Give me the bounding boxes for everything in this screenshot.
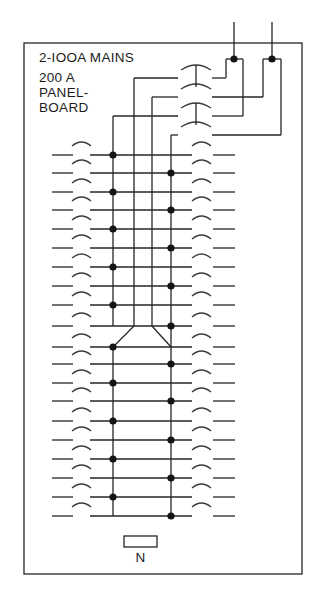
- branch-row: [52, 427, 235, 444]
- junction-dot-icon: [167, 206, 174, 213]
- junction-dot-icon: [109, 455, 116, 462]
- branch-row: [52, 179, 235, 196]
- left-breaker-arc-icon: [72, 370, 91, 374]
- junction-dot-icon: [230, 55, 237, 62]
- left-breaker-arc-icon: [72, 351, 91, 355]
- right-breaker-arc-icon: [192, 388, 211, 392]
- left-breaker-arc-icon: [72, 313, 91, 317]
- junction-dot-icon: [109, 225, 116, 232]
- branch-row: [52, 370, 235, 387]
- right-breaker-arc-icon: [192, 160, 211, 164]
- left-breaker-arc-icon: [72, 427, 91, 431]
- junction-dot-icon: [268, 55, 275, 62]
- branch-row: [52, 465, 235, 482]
- left-breaker-arc-icon: [72, 484, 91, 488]
- branch-row: [52, 313, 235, 330]
- left-breaker-arc-icon: [72, 446, 91, 450]
- left-breaker-arc-icon: [72, 254, 91, 258]
- one-line-diagram: 2-IOOA MAINS 200 A PANEL- BOARD N: [0, 0, 322, 594]
- right-breaker-arc-icon: [192, 254, 211, 258]
- right-breaker-arc-icon: [192, 408, 211, 412]
- right-breaker-arc-icon: [192, 142, 211, 146]
- service-feeds: [226, 22, 281, 63]
- branch-row: [52, 273, 235, 290]
- main-breakers: [113, 59, 281, 135]
- mains-rating-label: 2-IOOA MAINS: [39, 50, 134, 65]
- junction-dot-icon: [167, 474, 174, 481]
- junction-dot-icon: [109, 343, 116, 350]
- left-breaker-arc-icon: [72, 142, 91, 146]
- junction-dot-icon: [167, 169, 174, 176]
- panel-label-line3: BOARD: [39, 100, 89, 115]
- junction-dot-icon: [109, 188, 116, 195]
- left-breaker-arc-icon: [72, 160, 91, 164]
- junction-dot-icon: [167, 322, 174, 329]
- branch-row: [52, 292, 235, 309]
- right-breaker-arc-icon: [192, 370, 211, 374]
- branch-row: [52, 254, 235, 271]
- right-breaker-arc-icon: [192, 503, 211, 507]
- right-breaker-arc-icon: [192, 216, 211, 220]
- left-breaker-arc-icon: [72, 388, 91, 392]
- left-breaker-arc-icon: [72, 197, 91, 201]
- right-breaker-arc-icon: [192, 465, 211, 469]
- right-breaker-arc-icon: [192, 273, 211, 277]
- branch-row: [52, 388, 235, 405]
- right-breaker-arc-icon: [192, 179, 211, 183]
- junction-dot-icon: [109, 301, 116, 308]
- panel-label-line2: PANEL-: [39, 85, 89, 100]
- junction-dot-icon: [109, 263, 116, 270]
- branch-row: [52, 235, 235, 252]
- branch-row: [52, 408, 235, 425]
- right-breaker-arc-icon: [192, 235, 211, 239]
- junction-dot-icon: [109, 379, 116, 386]
- branch-row: [52, 197, 235, 214]
- left-breaker-arc-icon: [72, 292, 91, 296]
- left-breaker-arc-icon: [72, 503, 91, 507]
- branch-row: [52, 334, 235, 351]
- neutral-bar: [124, 536, 157, 547]
- left-breaker-arc-icon: [72, 465, 91, 469]
- right-breaker-arc-icon: [192, 446, 211, 450]
- branch-row: [52, 160, 235, 177]
- left-breaker-arc-icon: [72, 408, 91, 412]
- panel-rating-label: 200 A: [39, 70, 75, 85]
- neutral-label: N: [135, 550, 145, 565]
- junction-dot-icon: [109, 151, 116, 158]
- bus-bars: [113, 78, 171, 516]
- branch-row: [52, 142, 235, 159]
- left-breaker-arc-icon: [72, 179, 91, 183]
- junction-dot-icon: [167, 244, 174, 251]
- panel-enclosure: [24, 43, 302, 574]
- right-breaker-arc-icon: [192, 484, 211, 488]
- junction-dot-icon: [167, 512, 174, 519]
- left-breaker-arc-icon: [72, 273, 91, 277]
- left-breaker-arc-icon: [72, 216, 91, 220]
- branch-row: [52, 216, 235, 233]
- bus-bar-transition-a: [113, 326, 134, 347]
- panelboard-diagram: 2-IOOA MAINS 200 A PANEL- BOARD N: [0, 0, 322, 594]
- left-breaker-arc-icon: [72, 334, 91, 338]
- branch-row: [52, 503, 235, 520]
- left-breaker-arc-icon: [72, 235, 91, 239]
- right-breaker-arc-icon: [192, 313, 211, 317]
- branch-row: [52, 484, 235, 501]
- branch-row: [52, 446, 235, 463]
- right-breaker-arc-icon: [192, 197, 211, 201]
- junction-dot-icon: [109, 493, 116, 500]
- branch-row: [52, 351, 235, 368]
- right-breaker-arc-icon: [192, 351, 211, 355]
- junction-dot-icon: [167, 397, 174, 404]
- junction-dot-icon: [167, 360, 174, 367]
- junction-dot-icon: [167, 282, 174, 289]
- right-breaker-arc-icon: [192, 427, 211, 431]
- right-breaker-arc-icon: [192, 334, 211, 338]
- branch-circuits: [52, 142, 235, 520]
- junction-dot-icon: [109, 417, 116, 424]
- right-breaker-arc-icon: [192, 292, 211, 296]
- bus-bar-transition-b: [152, 326, 171, 347]
- junction-dot-icon: [167, 436, 174, 443]
